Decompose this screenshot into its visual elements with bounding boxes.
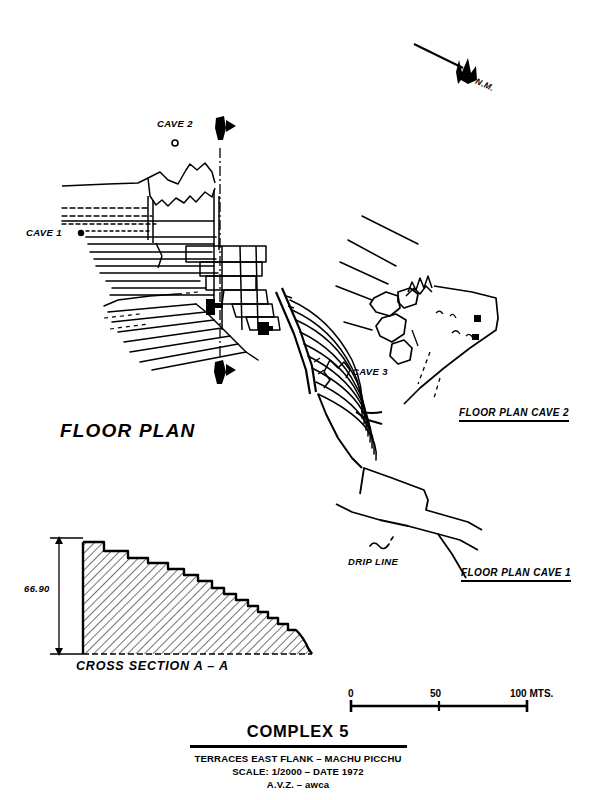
cross-section-dimension xyxy=(50,536,83,656)
main-retaining-wall xyxy=(276,288,316,394)
terrace-walls-lower-left xyxy=(104,294,258,370)
floor-plan-ridge-outline xyxy=(62,163,215,206)
cave-2-marker-icon xyxy=(172,140,178,146)
title-block-line-1: TERRACES EAST FLANK – MACHU PICCHU xyxy=(0,752,596,765)
section-line-a-a xyxy=(214,116,236,384)
title-block-line-3: A.V.Z. – awca xyxy=(0,778,596,791)
title-block: COMPLEX 5 TERRACES EAST FLANK – MACHU PI… xyxy=(0,722,596,791)
terrace-walls-left xyxy=(62,208,218,295)
title-block-rule xyxy=(190,745,407,748)
cross-section-title: CROSS SECTION A – A xyxy=(76,659,229,673)
floor-plan-label: FLOOR PLAN xyxy=(60,420,196,442)
scale-bar xyxy=(351,700,527,712)
title-block-heading: COMPLEX 5 xyxy=(0,722,596,741)
terrace-risers-left xyxy=(148,190,219,300)
drip-line-label: DRIP LINE xyxy=(348,556,398,567)
scale-tick-0: 0 xyxy=(348,688,354,699)
north-arrow-icon xyxy=(414,44,477,84)
scale-tick-50: 50 xyxy=(430,688,441,699)
cave-3-label: CAVE 3 xyxy=(352,366,388,377)
site-plan-drawing xyxy=(0,0,596,800)
curved-terraces-right xyxy=(290,300,376,460)
cave-1-label: CAVE 1 xyxy=(26,227,62,238)
drip-line-symbol-icon xyxy=(370,537,393,549)
floor-plan-cave-1-label: FLOOR PLAN CAVE 1 xyxy=(461,567,571,582)
floor-plan-cave-2-label: FLOOR PLAN CAVE 2 xyxy=(459,407,569,422)
cave-2-label: CAVE 2 xyxy=(157,118,193,129)
site-plan-page: N.M. CAVE 2 CAVE 1 CAVE 3 FLOOR PLAN FLO… xyxy=(0,0,596,800)
scale-tick-100: 100 MTS. xyxy=(510,688,553,699)
curved-terraces-right-edge xyxy=(318,394,382,468)
cross-section-figure xyxy=(50,536,312,656)
cave-1-marker-icon xyxy=(78,230,84,236)
cross-section-height-label: 66.90 xyxy=(24,583,50,594)
title-block-line-2: SCALE: 1/2000 – DATE 1972 xyxy=(0,765,596,778)
